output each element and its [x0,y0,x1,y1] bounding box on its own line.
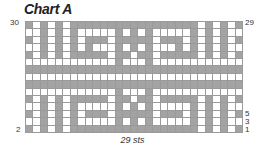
chart-cell [131,111,138,118]
chart-cell [33,59,40,66]
chart-cell [146,89,153,96]
chart-cell [56,96,63,103]
chart-cell [168,22,175,29]
chart-cell [206,44,213,51]
chart-cell [138,74,145,81]
chart-cell [116,29,123,36]
chart-cell [183,29,190,36]
chart-cell [41,22,48,29]
chart-cell [108,66,115,73]
chart-cell [33,118,40,125]
chart-cell [138,118,145,125]
chart-cell [206,81,213,88]
chart-cell [108,111,115,118]
chart-cell [138,111,145,118]
chart-cell [236,81,243,88]
chart-cell [183,66,190,73]
row-label-2: 2 [16,125,20,134]
chart-cell [101,59,108,66]
chart-cell [63,118,70,125]
chart-cell [56,111,63,118]
chart-cell [176,103,183,110]
chart-cell [63,37,70,44]
chart-cell [228,37,235,44]
chart-cell [78,118,85,125]
chart-cell [191,59,198,66]
chart-cell [93,89,100,96]
chart-cell [153,52,160,59]
chart-cell [41,96,48,103]
chart-cell [86,22,93,29]
chart-cell [56,81,63,88]
chart-cell [236,96,243,103]
chart-cell [116,111,123,118]
chart-cell [168,44,175,51]
chart-cell [168,81,175,88]
chart-cell [71,111,78,118]
chart-cell [176,22,183,29]
chart-cell [168,89,175,96]
chart-cell [33,103,40,110]
chart-cell [221,126,228,133]
chart-cell [221,22,228,29]
chart-cell [56,103,63,110]
chart-cell [78,66,85,73]
chart-cell [206,29,213,36]
chart-cell [71,37,78,44]
chart-cell [78,22,85,29]
chart-cell [41,103,48,110]
chart-cell [176,37,183,44]
chart-cell [168,111,175,118]
chart-cell [161,44,168,51]
chart-cell [191,111,198,118]
chart-cell [161,96,168,103]
chart-cell [236,37,243,44]
chart-cell [93,66,100,73]
chart-cell [71,22,78,29]
chart-cell [71,103,78,110]
chart-cell [123,37,130,44]
chart-cell [213,126,220,133]
chart-cell [138,66,145,73]
chart-cell [198,111,205,118]
chart-cell [93,81,100,88]
chart-cell [63,22,70,29]
chart-cell [78,52,85,59]
chart-cell [228,81,235,88]
chart-cell [41,126,48,133]
chart-cell [41,89,48,96]
chart-cell [33,44,40,51]
chart-cell [213,37,220,44]
chart-cell [26,44,33,51]
chart-cell [236,111,243,118]
chart-cell [198,22,205,29]
chart-cell [191,52,198,59]
chart-cell [153,22,160,29]
chart-cell [56,44,63,51]
chart-cell [41,29,48,36]
chart-cell [131,103,138,110]
chart-cell [161,81,168,88]
chart-cell [123,66,130,73]
chart-cell [176,118,183,125]
chart-cell [138,59,145,66]
chart-cell [56,66,63,73]
chart-cell [116,74,123,81]
chart-cell [71,81,78,88]
chart-cell [153,126,160,133]
chart-cell [86,103,93,110]
chart-cell [41,74,48,81]
chart-cell [131,81,138,88]
chart-cell [168,29,175,36]
chart-cell [221,103,228,110]
chart-cell [101,81,108,88]
chart-cell [153,89,160,96]
chart-cell [108,126,115,133]
chart-cell [176,59,183,66]
chart-cell [48,44,55,51]
chart-cell [63,111,70,118]
chart-cell [228,59,235,66]
chart-cell [153,96,160,103]
chart-cell [101,96,108,103]
chart-cell [48,118,55,125]
